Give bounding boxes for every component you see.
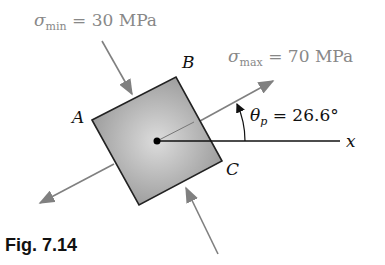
sigma-max-label: σmax = 70 MPa [228,46,353,69]
corner-b-label: B [182,52,195,72]
theta-p-label: θp = 26.6° [250,105,339,128]
x-axis-label: x [346,131,356,151]
stress-element-diagram [0,0,385,265]
corner-a-label: A [72,107,84,127]
sigma-max-arrow-left [40,164,114,203]
corner-c-label: C [226,159,239,179]
sigma-min-arrow-bottom [186,188,218,254]
sigma-min-arrow-top [102,41,132,94]
figure-caption: Fig. 7.14 [5,235,77,256]
center-point [154,138,161,145]
theta-arc [237,104,245,141]
sigma-min-label: σmin = 30 MPa [34,10,157,33]
